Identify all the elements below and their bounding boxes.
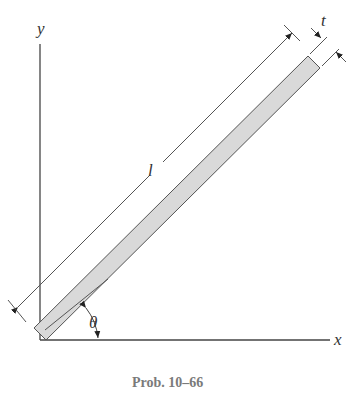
theta-label: θ (89, 313, 97, 332)
x-axis-label: x (333, 330, 342, 349)
y-axis-label: y (35, 19, 45, 38)
thickness-arrow-2 (336, 52, 346, 62)
slender-bar (34, 56, 320, 340)
length-tick-lower (8, 300, 26, 322)
length-label: l (148, 161, 153, 180)
diagram-canvas: y x l t θ Prob. 10–66 (0, 0, 347, 394)
thickness-label: t (321, 11, 327, 30)
thickness-ext-upper (310, 37, 327, 54)
thickness-ext-lower (322, 49, 339, 66)
thickness-arrow-1 (311, 28, 321, 38)
figure-caption: Prob. 10–66 (132, 375, 203, 390)
